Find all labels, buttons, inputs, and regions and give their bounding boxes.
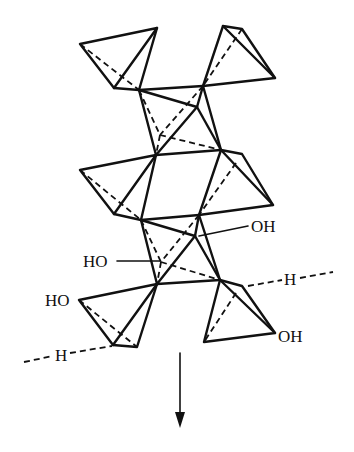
arrow-down-icon (175, 353, 185, 428)
tetrahedron-middle-left (80, 155, 156, 220)
structure-diagram: OH HO H HO OH H (0, 0, 354, 452)
tetrahedron-middle-right (199, 150, 273, 215)
tetrahedron-bottom-left (79, 284, 157, 347)
tetrahedron-top-right (203, 26, 275, 86)
tetrahedron-top-left (80, 28, 157, 90)
label-ho-middle-left: HO (83, 252, 108, 271)
label-h-left: H (55, 346, 67, 365)
bond-oh-upper-right (199, 226, 248, 236)
label-oh-lower-right: OH (278, 327, 303, 346)
hbond-left-outer (24, 356, 53, 362)
octahedron-lower (141, 215, 220, 284)
octahedron-upper (139, 86, 221, 155)
label-h-right: H (284, 270, 296, 289)
label-oh-upper-right: OH (251, 217, 276, 236)
hbond-left-inner (70, 346, 112, 353)
hbond-right-inner (248, 280, 282, 286)
tetrahedron-bottom-right (204, 280, 275, 342)
label-ho-lower-left: HO (45, 291, 70, 310)
hbond-right-outer (300, 272, 333, 278)
